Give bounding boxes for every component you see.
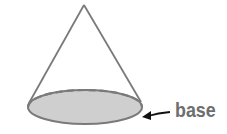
base-label: base (175, 98, 216, 122)
cone-right-edge (84, 5, 141, 102)
cone-left-edge (29, 5, 84, 103)
arrow-icon (142, 111, 170, 120)
cone (28, 5, 142, 124)
